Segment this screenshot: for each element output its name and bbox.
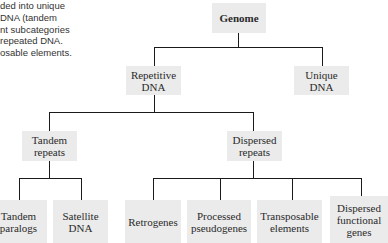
node-satellite-dna: Satellite DNA [53, 200, 108, 243]
node-dispersed-functional-genes: Dispersed functional genes [330, 196, 388, 243]
connector [19, 178, 82, 179]
node-repetitive-dna: Repetitive DNA [126, 66, 181, 95]
connector [292, 178, 293, 200]
connector [154, 47, 155, 66]
node-processed-pseudogenes: Processed pseudogenes [187, 200, 251, 243]
connector [322, 47, 323, 66]
caption-line: osable elements. [0, 47, 90, 59]
caption-line: repeated DNA. [0, 35, 90, 47]
caption-line: ded into unique [0, 0, 90, 12]
node-tandem-repeats: Tandem repeats [22, 131, 77, 161]
node-genome: Genome [212, 3, 266, 33]
connector [81, 178, 82, 200]
caption-line: nt subcategories [0, 24, 90, 36]
connector [238, 33, 239, 47]
connector [154, 47, 323, 48]
caption-text: ded into unique DNA (tandem nt subcatego… [0, 0, 90, 59]
node-retrogenes: Retrogenes [125, 200, 181, 243]
node-transposable-elements: Transposable elements [257, 200, 322, 243]
node-unique-dna: Unique DNA [294, 66, 349, 95]
connector [153, 178, 362, 179]
connector [49, 161, 50, 178]
connector [220, 178, 221, 200]
connector [153, 178, 154, 200]
connector [253, 112, 254, 131]
connector [253, 161, 254, 178]
connector [49, 112, 254, 113]
connector [49, 112, 50, 131]
node-tandem-paralogs: Tandem paralogs [0, 200, 47, 243]
caption-line: DNA (tandem [0, 12, 90, 24]
node-dispersed-repeats: Dispersed repeats [227, 131, 282, 161]
connector [19, 178, 20, 200]
connector [154, 95, 155, 112]
